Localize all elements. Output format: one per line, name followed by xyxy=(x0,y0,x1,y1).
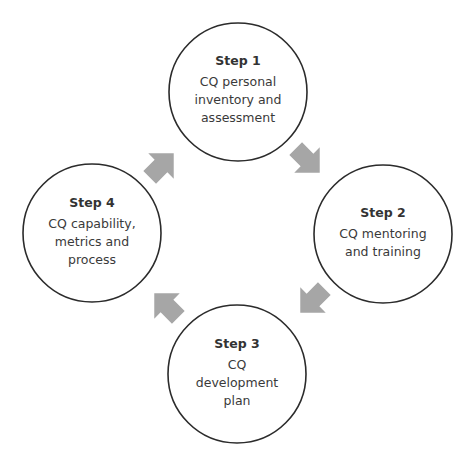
step-4-circle xyxy=(23,164,161,302)
arrow-step1-to-step2 xyxy=(283,136,332,185)
step-3-circle xyxy=(168,305,306,443)
arrow-step4-to-step1 xyxy=(137,141,186,190)
step-1-circle xyxy=(169,23,307,161)
cycle-diagram xyxy=(0,0,472,459)
arrow-step2-to-step3 xyxy=(288,276,337,325)
step-2-circle xyxy=(314,165,452,303)
arrow-step3-to-step4 xyxy=(142,281,191,330)
